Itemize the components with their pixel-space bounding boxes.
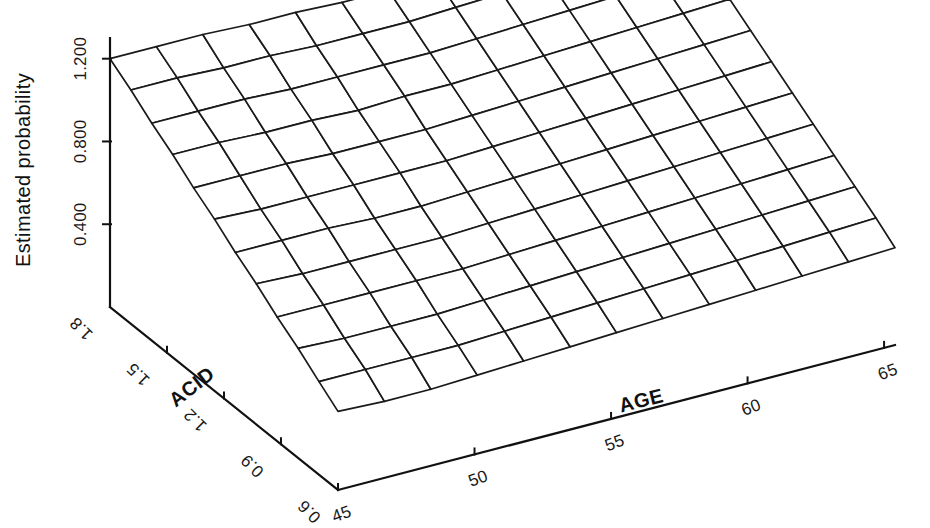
z-tick-label: 0.400	[71, 202, 90, 246]
z-tick-label: 1.200	[71, 37, 90, 81]
z-axis-title: Estimated probability	[12, 73, 34, 267]
surface-plot-figure: 0.4000.8001.200 1.81.51.20.90.6 45505560…	[0, 0, 930, 528]
figure-canvas: 0.4000.8001.200 1.81.51.20.90.6 45505560…	[0, 0, 930, 528]
z-tick-label: 0.800	[71, 120, 90, 164]
